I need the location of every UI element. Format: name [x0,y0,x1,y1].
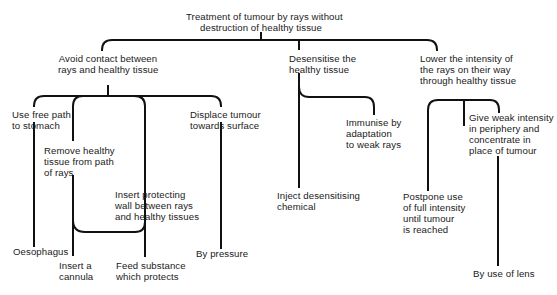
avoid-bar [34,96,221,106]
wall-branch [135,96,145,183]
node-desensitise: Desensitise the healthy tissue [289,53,356,75]
node-immunise: Immunise by adaptation to weak rays [346,117,401,150]
node-feed-substance: Feed substance which protects [116,260,186,282]
immunise-branch [299,87,374,114]
remove-branch [73,96,83,140]
root-node: Treatment of tumour by rays without dest… [186,11,336,33]
node-free-path: Use free path to stomach [12,109,71,131]
node-remove-tissue: Remove healthy tissue from path of rays [44,145,115,178]
node-oesophagus: Oesophagus [13,246,68,257]
node-weak-intensity: Give weak intensity in periphery and con… [469,112,554,156]
node-protecting-wall: Insert protecting wall between rays and … [115,189,199,222]
node-pressure: By pressure [196,248,248,259]
top-bar [102,40,437,50]
node-cannula: Insert a cannula [59,260,93,282]
node-avoid-contact: Avoid contact between rays and healthy t… [58,53,158,75]
node-inject: Inject desensitising chemical [277,190,360,212]
node-displace: Displace tumour towards surface [190,109,261,131]
node-lens: By use of lens [473,268,535,279]
node-lower-intensity: Lower the intensity of the rays on their… [420,53,516,86]
node-postpone: Postpone use of full intensity until tum… [403,191,466,235]
